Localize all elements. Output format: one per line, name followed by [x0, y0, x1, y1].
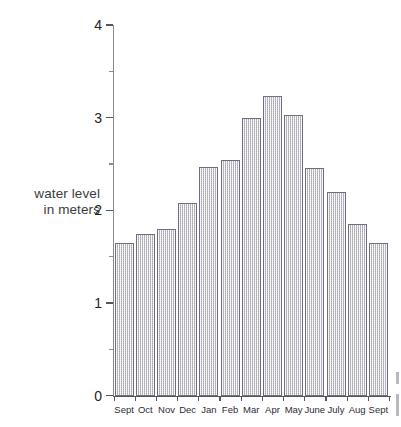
x-tick-label: Dec: [179, 404, 196, 415]
x-tick-label: Sept: [369, 404, 389, 415]
y-tick-minor: [109, 163, 114, 164]
y-tick-major: [106, 395, 113, 396]
x-axis-line: [113, 396, 391, 397]
x-tick: [304, 396, 305, 401]
x-tick-label: May: [285, 404, 303, 415]
bar: [348, 224, 367, 395]
bar: [242, 118, 261, 396]
x-tick: [283, 396, 284, 401]
scan-artifact: [396, 372, 399, 384]
y-tick-label: 1: [76, 296, 102, 310]
bar: [157, 229, 176, 396]
x-tick: [156, 396, 157, 401]
x-tick-label: Jan: [201, 404, 216, 415]
x-tick: [198, 396, 199, 401]
x-tick-label: Mar: [243, 404, 259, 415]
y-tick-minor: [109, 71, 114, 72]
x-tick-label: Feb: [222, 404, 238, 415]
x-tick: [114, 396, 115, 401]
x-tick-label: June: [305, 404, 326, 415]
x-tick-label: Oct: [138, 404, 153, 415]
y-tick-label: 3: [76, 111, 102, 125]
y-tick-major: [106, 24, 113, 25]
bar: [369, 243, 388, 396]
bar: [178, 203, 197, 396]
x-tick: [262, 396, 263, 401]
bar-chart: water level in meters 01234 SeptOctNovDe…: [0, 0, 401, 427]
bar: [263, 96, 282, 395]
y-axis-label-line-1: water level: [8, 186, 100, 202]
y-tick-major: [106, 302, 113, 303]
x-tick: [389, 396, 390, 401]
bar: [284, 115, 303, 396]
bar: [199, 167, 218, 396]
y-tick-major: [106, 117, 113, 118]
y-tick-label: 2: [76, 203, 102, 217]
x-tick: [368, 396, 369, 401]
x-tick-label: Aug: [349, 404, 366, 415]
x-tick: [219, 396, 220, 401]
x-tick: [241, 396, 242, 401]
y-tick-major: [106, 210, 113, 211]
x-tick: [177, 396, 178, 401]
x-tick-label: Nov: [158, 404, 175, 415]
y-tick-minor: [109, 349, 114, 350]
y-tick-minor: [109, 256, 114, 257]
x-tick-label: July: [328, 404, 345, 415]
bar: [327, 192, 346, 396]
x-tick-label: Apr: [265, 404, 280, 415]
x-tick: [325, 396, 326, 401]
x-tick: [135, 396, 136, 401]
bar: [305, 168, 324, 396]
bar: [115, 243, 134, 396]
scan-artifact: [396, 394, 399, 416]
y-tick-label: 0: [76, 389, 102, 403]
x-tick-label: Sept: [114, 404, 134, 415]
x-tick: [347, 396, 348, 401]
bar: [221, 160, 240, 395]
y-tick-label: 4: [76, 18, 102, 32]
bar: [136, 234, 155, 395]
